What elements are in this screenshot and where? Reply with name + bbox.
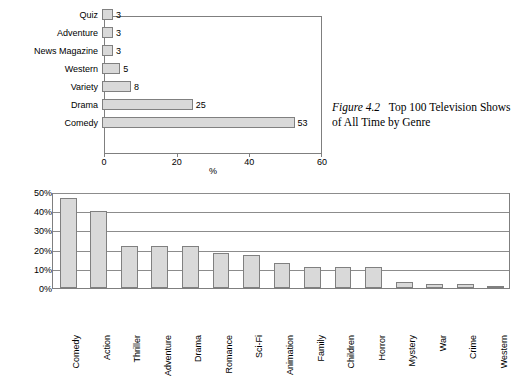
bar-row: Drama25 xyxy=(6,98,326,113)
bar-fill xyxy=(182,246,199,288)
bar-track: 25 xyxy=(102,98,326,113)
bar-value-label: 3 xyxy=(116,26,121,41)
bottom-chart-y-axis: 0%10%20%30%40%50% xyxy=(14,193,52,289)
bar-fill xyxy=(60,198,77,288)
x-axis-category-label: Western xyxy=(499,335,509,368)
bar-row: News Magazine3 xyxy=(6,44,326,59)
bar-category-label: Variety xyxy=(6,80,102,95)
bar-row: Variety8 xyxy=(6,80,326,95)
bar-category-label: Drama xyxy=(6,98,102,113)
bar-value-label: 3 xyxy=(116,8,121,23)
bar-row: Quiz3 xyxy=(6,8,326,23)
y-axis-tick-label: 50% xyxy=(18,189,52,198)
x-axis-category-label: Horror xyxy=(377,335,387,361)
gridline xyxy=(53,193,509,194)
bar-fill xyxy=(274,263,291,288)
bar-track: 53 xyxy=(102,116,326,131)
bar-fill xyxy=(335,267,352,288)
x-axis-category-label: Thriller xyxy=(132,335,142,363)
bar-fill xyxy=(396,282,413,288)
bar-fill xyxy=(151,246,168,288)
x-axis-category-label: Animation xyxy=(285,335,295,375)
bar-category-label: Western xyxy=(6,62,102,77)
x-axis-category-label: War xyxy=(438,335,448,351)
bar-fill xyxy=(457,284,474,288)
bar-value-label: 25 xyxy=(196,98,206,113)
bar-category-label: Adventure xyxy=(6,26,102,41)
bar-fill xyxy=(426,284,443,288)
bar-row: Comedy53 xyxy=(6,116,326,131)
y-axis-tick-label: 0% xyxy=(18,285,52,294)
bar-category-label: News Magazine xyxy=(6,44,102,59)
bar-fill xyxy=(102,45,113,56)
bar-row: Western5 xyxy=(6,62,326,77)
x-axis-category-label: Children xyxy=(346,335,356,369)
bar-fill xyxy=(304,267,321,288)
y-axis-tick-label: 40% xyxy=(18,208,52,217)
bar-value-label: 5 xyxy=(123,62,128,77)
x-axis-category-label: Sci-Fi xyxy=(254,335,264,358)
x-axis-category-label: Action xyxy=(102,335,112,360)
bar-track: 8 xyxy=(102,80,326,95)
x-axis-category-label: Comedy xyxy=(71,335,81,369)
y-axis-tick-label: 10% xyxy=(18,266,52,275)
bar-fill xyxy=(487,286,504,288)
bar-category-label: Comedy xyxy=(6,116,102,131)
bar-value-label: 3 xyxy=(116,44,121,59)
figure-caption: Figure 4.2 Top 100 Television Shows of A… xyxy=(332,100,514,130)
bar-track: 5 xyxy=(102,62,326,77)
bar-fill xyxy=(102,63,120,74)
vertical-bar-chart: 0%10%20%30%40%50% ComedyActionThrillerAd… xyxy=(14,193,510,333)
bar-fill xyxy=(121,246,138,288)
bottom-chart-plot-area xyxy=(52,193,510,289)
bar-track: 3 xyxy=(102,44,326,59)
bar-fill xyxy=(102,9,113,20)
top-chart-x-axis-label: % xyxy=(104,166,322,176)
bar-fill xyxy=(102,27,113,38)
figure-number: Figure 4.2 xyxy=(332,101,380,113)
bar-fill xyxy=(90,211,107,288)
horizontal-bar-chart: Quiz3Adventure3News Magazine3Western5Var… xyxy=(6,8,326,168)
y-axis-tick-label: 30% xyxy=(18,227,52,236)
bottom-chart-x-axis: ComedyActionThrillerAdventureDramaRomanc… xyxy=(52,293,510,337)
bar-fill xyxy=(213,253,230,288)
x-axis-category-label: Mystery xyxy=(407,335,417,367)
bar-track: 3 xyxy=(102,8,326,23)
x-axis-category-label: Romance xyxy=(224,335,234,374)
bar-fill xyxy=(365,267,382,288)
x-axis-category-label: Crime xyxy=(468,335,478,359)
bar-row: Adventure3 xyxy=(6,26,326,41)
bar-fill xyxy=(102,81,131,92)
x-axis-category-label: Adventure xyxy=(163,335,173,376)
x-axis-category-label: Family xyxy=(316,335,326,362)
bar-value-label: 8 xyxy=(134,80,139,95)
bar-track: 3 xyxy=(102,26,326,41)
bar-value-label: 53 xyxy=(298,116,308,131)
bar-fill xyxy=(243,255,260,288)
gridline xyxy=(53,231,509,232)
bar-fill xyxy=(102,99,193,110)
x-axis-category-label: Drama xyxy=(193,335,203,362)
bar-category-label: Quiz xyxy=(6,8,102,23)
gridline xyxy=(53,212,509,213)
bar-fill xyxy=(102,117,295,128)
y-axis-tick-label: 20% xyxy=(18,247,52,256)
top-chart-bars: Quiz3Adventure3News Magazine3Western5Var… xyxy=(6,8,326,131)
